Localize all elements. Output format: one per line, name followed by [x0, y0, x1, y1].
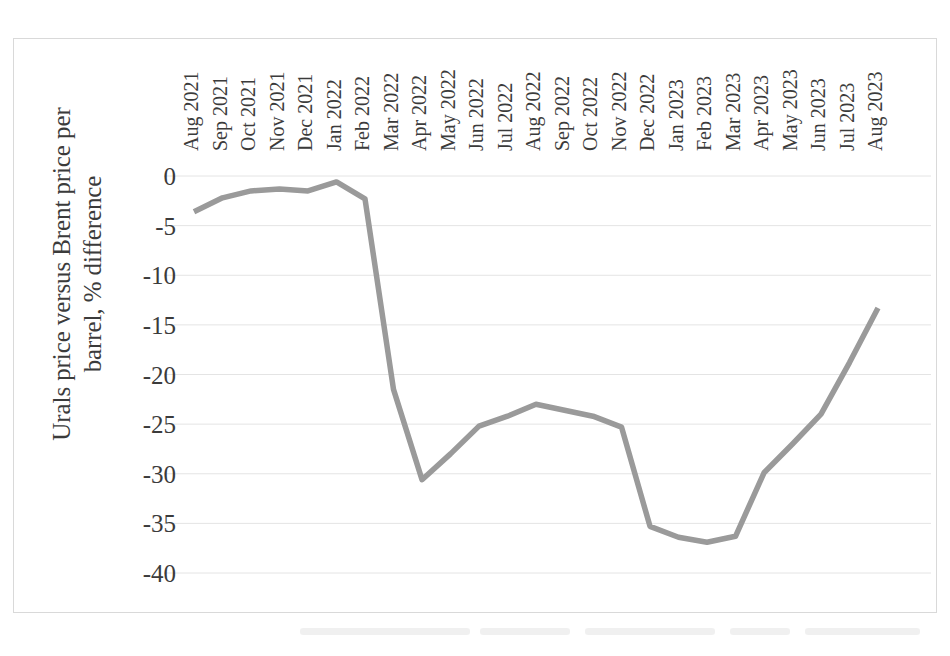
x-tick-label: Oct 2021	[238, 77, 258, 151]
caption-smudge	[300, 628, 920, 644]
x-tick-label: Mar 2022	[381, 73, 401, 151]
chart-plot-frame: 0-5-10-15-20-25-30-35-40 Aug 2021Sep 202…	[13, 38, 937, 613]
x-tick-label: Nov 2022	[609, 72, 629, 151]
x-tick-label: Aug 2022	[523, 72, 543, 151]
x-tick-label: Jan 2023	[666, 79, 686, 151]
x-tick-label: May 2023	[780, 69, 800, 151]
x-tick-label: Mar 2023	[723, 73, 743, 151]
x-tick-label: Dec 2021	[295, 74, 315, 151]
x-tick-label: Jun 2022	[466, 78, 486, 151]
x-tick-label: Jul 2022	[495, 83, 515, 151]
x-axis-tick-labels: Aug 2021Sep 2021Oct 2021Nov 2021Dec 2021…	[14, 39, 938, 614]
caption-smudge-bar	[805, 628, 920, 635]
caption-smudge-bar	[730, 628, 790, 635]
x-tick-label: Jun 2023	[808, 78, 828, 151]
x-tick-label: Aug 2023	[865, 72, 885, 151]
x-tick-label: Jul 2023	[837, 83, 857, 151]
x-tick-label: Oct 2022	[580, 77, 600, 151]
chart-figure: 0-5-10-15-20-25-30-35-40 Aug 2021Sep 202…	[0, 0, 950, 656]
y-axis-title-line-1: Urals price versus Brent price per	[46, 64, 77, 484]
x-tick-label: Sep 2021	[210, 76, 230, 151]
y-axis-title: Urals price versus Brent price per barre…	[46, 64, 106, 484]
x-tick-label: Apr 2023	[751, 75, 771, 151]
y-axis-title-line-2: barrel, % difference	[77, 64, 108, 484]
x-tick-label: Sep 2022	[552, 76, 572, 151]
caption-smudge-bar	[585, 628, 715, 635]
x-tick-label: Apr 2022	[409, 75, 429, 151]
x-tick-label: Feb 2022	[352, 76, 372, 151]
x-tick-label: Dec 2022	[637, 74, 657, 151]
x-tick-label: Feb 2023	[694, 76, 714, 151]
caption-smudge-bar	[480, 628, 570, 635]
x-tick-label: Aug 2021	[181, 72, 201, 151]
x-tick-label: May 2022	[438, 69, 458, 151]
x-tick-label: Nov 2021	[267, 72, 287, 151]
caption-smudge-bar	[300, 628, 470, 635]
x-tick-label: Jan 2022	[324, 79, 344, 151]
